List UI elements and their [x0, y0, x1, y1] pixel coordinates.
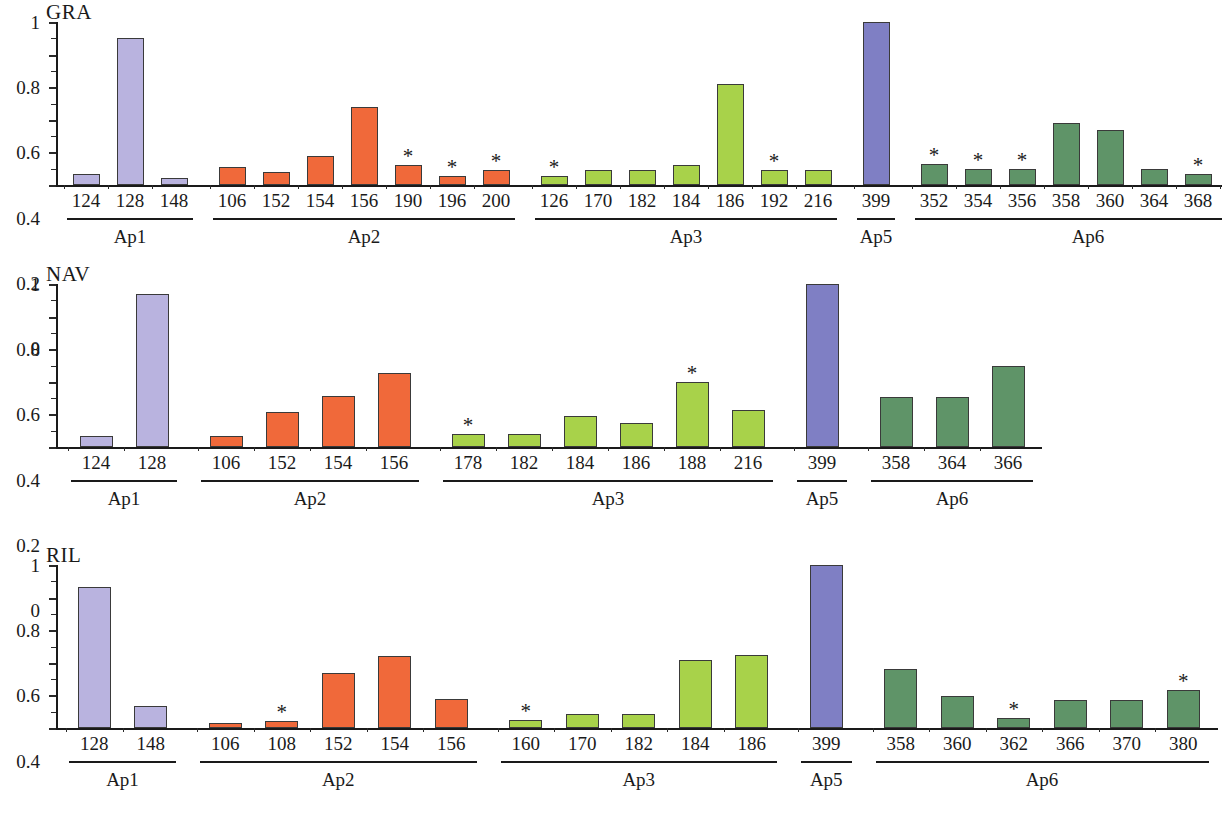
x-tick [430, 185, 431, 189]
bar [378, 373, 411, 447]
x-tick [152, 185, 153, 189]
x-tick [254, 728, 255, 732]
x-axis-tick-label: 148 [160, 190, 189, 212]
bar [219, 167, 246, 185]
significance-star: * [1017, 150, 1028, 171]
y-tick: 0.6 [49, 87, 56, 89]
bar [266, 412, 299, 447]
bar [992, 366, 1025, 448]
x-axis-tick-label: 106 [218, 190, 247, 212]
group-underline [876, 761, 1209, 763]
x-axis-tick-label: 216 [804, 190, 833, 212]
x-tick [986, 728, 987, 732]
significance-star: * [973, 150, 984, 171]
x-axis-tick-label: 152 [324, 733, 353, 755]
bar [435, 699, 468, 728]
x-axis-tick-label: 128 [138, 452, 167, 474]
x-tick [496, 447, 497, 451]
group-underline [501, 761, 778, 763]
y-tick: 0.2 [49, 695, 56, 697]
bar [806, 284, 839, 447]
x-axis-tick-label: 182 [510, 452, 539, 474]
x-tick [1088, 185, 1089, 189]
bar [717, 84, 744, 185]
y-tick: 0.8 [49, 317, 56, 319]
x-axis-tick-label: 154 [306, 190, 335, 212]
x-tick [929, 728, 930, 732]
y-axis-tick-label: 0.8 [16, 78, 40, 97]
group-underline [67, 218, 193, 220]
x-tick [210, 185, 211, 189]
x-axis-tick-label: 182 [628, 190, 657, 212]
group-label: Ap3 [592, 488, 625, 510]
x-tick [66, 728, 67, 732]
x-tick [980, 447, 981, 451]
group-underline [200, 761, 477, 763]
bar [1053, 123, 1080, 185]
bar [810, 565, 843, 728]
significance-star: * [277, 702, 288, 723]
y-tick: 0.2 [49, 414, 56, 416]
bar [884, 669, 917, 728]
group-underline [801, 761, 852, 763]
group-label: Ap2 [322, 769, 355, 791]
bar [378, 656, 411, 728]
bar [1054, 700, 1087, 728]
x-tick [367, 728, 368, 732]
group-label: Ap2 [348, 226, 381, 248]
y-tick: 0.8 [49, 598, 56, 600]
x-axis-tick-label: 368 [1184, 190, 1213, 212]
bar: * [452, 434, 485, 447]
y-tick [51, 169, 56, 170]
x-tick [1099, 728, 1100, 732]
x-axis-tick-label: 360 [943, 733, 972, 755]
plot-area-ril: 00.20.40.60.81 **** [56, 565, 1214, 728]
y-tick: 0.6 [49, 630, 56, 632]
x-tick [366, 447, 367, 451]
y-axis-tick-label: 0.6 [16, 405, 40, 424]
bar [735, 655, 768, 728]
x-tick [64, 185, 65, 189]
bar [863, 22, 890, 185]
y-tick [51, 712, 56, 713]
significance-star: * [447, 157, 458, 178]
group-label: Ap2 [294, 488, 327, 510]
bar [585, 170, 612, 185]
chart-panel-ril: RIL 00.20.40.60.81 **** 1281481061081521… [0, 543, 1222, 818]
x-axis-tick-label: 196 [438, 190, 467, 212]
x-axis-tick-label: 170 [568, 733, 597, 755]
x-tick [620, 185, 621, 189]
bar [78, 587, 111, 728]
x-tick [552, 447, 553, 451]
y-tick: 0 [49, 728, 56, 730]
y-tick [51, 431, 56, 432]
bar: * [395, 165, 422, 185]
y-axis-tick-label: 0.4 [16, 208, 40, 227]
x-axis-tick-label: 126 [540, 190, 569, 212]
x-axis-tick-label: 184 [681, 733, 710, 755]
significance-star: * [403, 146, 414, 167]
bar: * [541, 176, 568, 185]
x-axis-tick-label: 124 [82, 452, 111, 474]
y-axis-tick-label: 1 [31, 275, 41, 294]
y-tick [51, 71, 56, 72]
x-tick [667, 728, 668, 732]
x-tick [796, 185, 797, 189]
bar [351, 107, 378, 185]
y-tick: 0.2 [49, 152, 56, 154]
bar [80, 436, 113, 447]
x-axis-tick-label: 356 [1008, 190, 1037, 212]
bar: * [921, 164, 948, 185]
bar [941, 696, 974, 728]
bar [136, 294, 169, 447]
plot-area-nav: 00.20.40.60.81 ** [56, 284, 1214, 447]
y-tick: 0.8 [49, 55, 56, 57]
x-tick [576, 185, 577, 189]
plot-area-gra: 00.20.40.60.81 ********* [56, 22, 1214, 185]
y-tick: 0.4 [49, 382, 56, 384]
x-axis-tick-label: 358 [887, 733, 916, 755]
x-axis-tick-label: 354 [964, 190, 993, 212]
x-axis-tick-label: 124 [72, 190, 101, 212]
panel-title-gra: GRA [46, 2, 92, 23]
x-axis-tick-label: 186 [622, 452, 651, 474]
